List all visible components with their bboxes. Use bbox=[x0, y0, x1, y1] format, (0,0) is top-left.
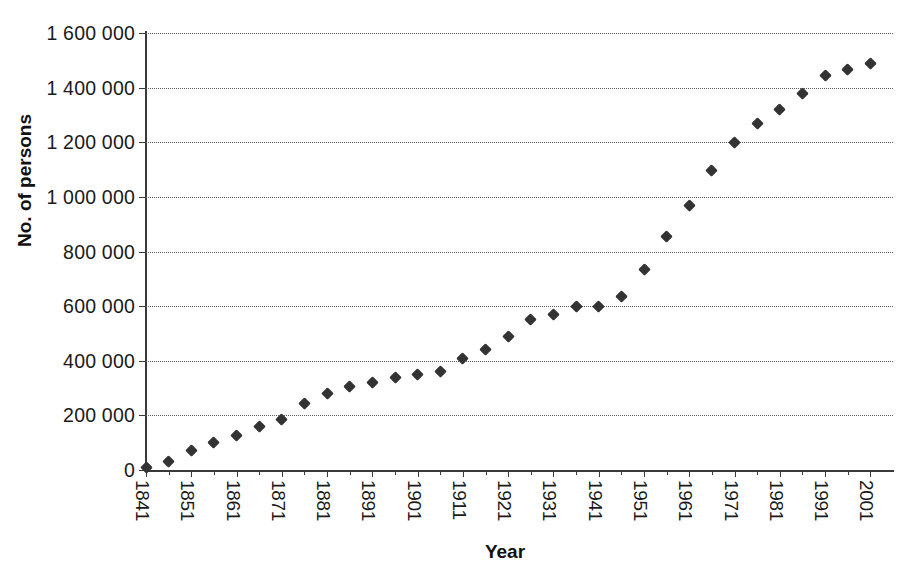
data-point bbox=[683, 199, 696, 212]
x-axis-tick bbox=[395, 470, 396, 475]
y-axis-tick-label: 1 600 000 bbox=[46, 22, 135, 45]
gridline bbox=[146, 88, 893, 89]
x-axis-tick bbox=[508, 470, 509, 477]
x-axis-tick bbox=[644, 470, 645, 477]
x-axis-tick bbox=[191, 470, 192, 477]
x-axis-tick bbox=[848, 470, 849, 475]
x-axis-tick bbox=[689, 470, 690, 477]
y-axis-tick-label: 400 000 bbox=[63, 349, 135, 372]
y-axis-tick bbox=[139, 88, 146, 89]
x-axis-tick bbox=[372, 470, 373, 477]
x-axis-tick bbox=[350, 470, 351, 475]
x-axis-tick bbox=[621, 470, 622, 475]
gridline bbox=[146, 306, 893, 307]
x-axis-tick bbox=[576, 470, 577, 475]
data-point bbox=[706, 165, 719, 178]
data-point bbox=[638, 263, 651, 276]
clipped-title-remnant bbox=[250, 0, 590, 4]
y-axis-tick-label: 1 400 000 bbox=[46, 76, 135, 99]
x-axis-tick bbox=[712, 470, 713, 475]
data-point bbox=[434, 365, 447, 378]
y-axis-tick-label: 1 000 000 bbox=[46, 185, 135, 208]
x-axis-tick bbox=[327, 470, 328, 477]
data-point bbox=[547, 308, 560, 321]
y-axis-tick-label: 0 bbox=[124, 459, 135, 482]
gridline bbox=[146, 415, 893, 416]
gridline bbox=[146, 142, 893, 143]
x-axis-tick bbox=[304, 470, 305, 475]
data-point bbox=[592, 300, 605, 313]
x-axis-tick bbox=[870, 470, 871, 477]
y-axis-tick-label: 800 000 bbox=[63, 240, 135, 263]
x-axis-tick bbox=[531, 470, 532, 475]
gridline bbox=[146, 33, 893, 34]
data-point bbox=[819, 69, 832, 82]
data-point bbox=[230, 429, 243, 442]
x-axis-tick bbox=[259, 470, 260, 475]
data-point bbox=[660, 230, 673, 243]
x-axis-tick bbox=[169, 470, 170, 475]
data-point bbox=[162, 455, 175, 468]
data-point bbox=[751, 117, 764, 130]
data-point bbox=[140, 461, 153, 474]
plot-area: 0200 000400 000600 000800 0001 000 0001 … bbox=[146, 33, 893, 470]
data-point bbox=[253, 420, 266, 433]
data-point bbox=[864, 57, 877, 70]
data-point bbox=[524, 313, 537, 326]
data-point bbox=[615, 290, 628, 303]
x-axis-tick bbox=[463, 470, 464, 477]
x-axis-tick bbox=[825, 470, 826, 477]
data-point bbox=[841, 63, 854, 76]
y-axis-tick bbox=[139, 252, 146, 253]
data-point bbox=[366, 376, 379, 389]
x-axis-tick bbox=[282, 470, 283, 477]
x-axis-tick bbox=[735, 470, 736, 477]
data-point bbox=[298, 397, 311, 410]
x-axis-line bbox=[145, 470, 894, 472]
y-axis-tick bbox=[139, 361, 146, 362]
y-axis-tick bbox=[139, 33, 146, 34]
data-point bbox=[411, 368, 424, 381]
x-axis-tick bbox=[780, 470, 781, 477]
chart-figure: No. of persons Year 0200 000400 000600 0… bbox=[0, 0, 910, 571]
data-point bbox=[773, 103, 786, 116]
gridline bbox=[146, 252, 893, 253]
x-axis-tick bbox=[486, 470, 487, 475]
y-axis-tick bbox=[139, 306, 146, 307]
x-axis-tick bbox=[667, 470, 668, 475]
x-axis-title: Year bbox=[0, 541, 910, 563]
gridline bbox=[146, 361, 893, 362]
y-axis-tick bbox=[139, 142, 146, 143]
data-point bbox=[728, 136, 741, 149]
x-axis-tick bbox=[553, 470, 554, 477]
y-axis-title: No. of persons bbox=[14, 114, 36, 247]
x-axis-tick bbox=[802, 470, 803, 475]
data-point bbox=[479, 343, 492, 356]
y-axis-tick bbox=[139, 197, 146, 198]
data-point bbox=[502, 330, 515, 343]
y-axis-tick-label: 200 000 bbox=[63, 404, 135, 427]
x-axis-tick bbox=[237, 470, 238, 477]
data-point bbox=[185, 445, 198, 458]
y-axis-tick-label: 600 000 bbox=[63, 295, 135, 318]
data-point bbox=[570, 300, 583, 313]
data-point bbox=[343, 380, 356, 393]
x-axis-tick bbox=[418, 470, 419, 477]
data-point bbox=[321, 387, 334, 400]
x-axis-tick bbox=[599, 470, 600, 477]
data-point bbox=[208, 436, 221, 449]
y-axis-tick bbox=[139, 415, 146, 416]
y-axis-tick-label: 1 200 000 bbox=[46, 131, 135, 154]
x-axis-tick bbox=[757, 470, 758, 475]
data-point bbox=[389, 371, 402, 384]
x-axis-tick bbox=[214, 470, 215, 475]
data-point bbox=[457, 352, 470, 365]
x-axis-tick bbox=[440, 470, 441, 475]
gridline bbox=[146, 197, 893, 198]
